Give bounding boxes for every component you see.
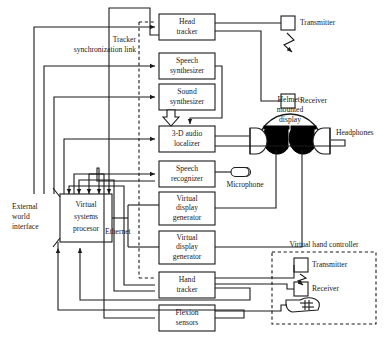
sync-label: synchronization link	[74, 45, 136, 54]
external-world-label: External	[12, 202, 38, 211]
transmitter-hand-label: Transmitter	[312, 260, 348, 269]
block-label: generator	[173, 252, 202, 261]
block-label: synthesizer	[170, 66, 205, 75]
helmet-label: display	[279, 115, 301, 124]
virtual-hand-controller: Virtual hand controller Transmitter Rece…	[272, 240, 376, 324]
edge-head-tracker-to-receiver	[215, 31, 281, 101]
receiver-hand-label: Receiver	[312, 284, 339, 293]
hollow-arrow-sound-to-localizer	[163, 110, 179, 126]
external-world-label: world	[12, 212, 30, 221]
block-diagram-svg: Head tracker Speech synthesizer Sound sy…	[0, 0, 390, 338]
block-label: synthesizer	[170, 97, 205, 106]
block-hand-tracker: Hand tracker	[159, 272, 215, 298]
block-label: Flexion	[175, 308, 198, 317]
block-label: Virtual	[176, 194, 197, 203]
receiver-hand: Receiver	[294, 282, 339, 296]
helmet-label: mounted	[277, 105, 304, 114]
block-label: display	[176, 203, 198, 212]
left-earcup	[250, 128, 267, 154]
microphone-icon	[215, 168, 251, 177]
block-audio-localizer: 3-D audio localizer	[159, 126, 215, 152]
transmitter-top: Transmitter	[281, 16, 336, 30]
block-label: Head	[179, 17, 195, 26]
block-label: recognizer	[171, 174, 204, 183]
edge-flexion-return-bottom	[58, 248, 244, 318]
block-label: 3-D audio	[172, 129, 203, 138]
glove-icon	[286, 298, 320, 312]
headphones-label: Headphones	[336, 128, 374, 137]
edge-speech-recognizer-to-processor	[97, 168, 155, 194]
block-label: Hand	[179, 275, 196, 284]
block-label: procesor	[73, 224, 100, 233]
edge-display2-to-right-eye	[215, 150, 302, 247]
microphone-label: Microphone	[226, 180, 264, 189]
block-sound-synthesizer: Sound synthesizer	[159, 84, 215, 110]
block-label: localizer	[174, 139, 201, 148]
transmitter-hand: Transmitter	[294, 258, 348, 272]
receiver-label: Receiver	[300, 96, 327, 105]
block-label: tracker	[176, 285, 198, 294]
block-head-tracker: Head tracker	[159, 14, 215, 40]
block-label: generator	[173, 213, 202, 222]
helmet-label: Helmet-	[278, 95, 303, 104]
external-world-interface: External world interface	[12, 188, 60, 247]
external-world-label: interface	[12, 222, 39, 231]
right-earcup	[313, 128, 330, 154]
block-label: display	[176, 242, 198, 251]
edge-to-hand-transmitter	[215, 265, 294, 278]
ethernet-label: Ethernet	[105, 227, 132, 236]
block-label: Speech	[176, 56, 198, 65]
block-label: tracker	[176, 27, 198, 36]
block-speech-recognizer: Speech recognizer	[159, 161, 215, 187]
transmitter-label: Transmitter	[300, 18, 336, 27]
wireless-link-icon	[284, 33, 294, 52]
vhc-label: Virtual hand controller	[289, 240, 359, 249]
block-display-generator-2: Virtual display generator	[159, 231, 215, 264]
block-label: Sound	[177, 87, 197, 96]
block-label: Virtual	[176, 233, 197, 242]
sync-label: Tracker	[113, 35, 137, 44]
block-flexion-sensors: Flexion sensors	[159, 305, 215, 331]
block-label: sensors	[176, 318, 198, 327]
ethernet-bus: Ethernet	[105, 205, 159, 247]
block-label: systems	[74, 212, 98, 221]
diagram-canvas: Head tracker Speech synthesizer Sound sy…	[0, 0, 390, 338]
block-speech-synthesizer: Speech synthesizer	[159, 53, 215, 79]
block-label: Speech	[176, 164, 198, 173]
block-display-generator-1: Virtual display generator	[159, 192, 215, 225]
block-label: Virtual	[75, 200, 96, 209]
